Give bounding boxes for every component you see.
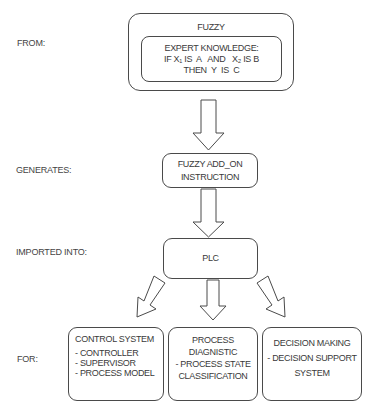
expert-knowledge-box: EXPERT KNOWLEDGE: IF X₁ IS A AND X₂ IS B… [141, 36, 282, 82]
control-system-box: CONTROL SYSTEM - CONTROLLER - SUPERVISOR… [68, 327, 164, 401]
fuzzy-title: FUZZY [197, 22, 225, 33]
decision-item-line1: - DECISION SUPPORT [267, 351, 356, 366]
decision-item-line2: SYSTEM [294, 366, 329, 381]
arrow-down-icon [193, 100, 224, 150]
plc-box: PLC [163, 238, 258, 279]
arrow-down-icon [193, 189, 224, 237]
control-system-title: CONTROL SYSTEM [75, 334, 154, 344]
arrow-down-right-icon [257, 276, 285, 317]
process-item-line1: - PROCESS STATE [175, 358, 250, 370]
process-item-line2: CLASSIFICATION [178, 370, 247, 382]
addon-instruction-box: FUZZY ADD_ON INSTRUCTION [162, 153, 258, 188]
rule-conclusion: THEN Y IS C [184, 65, 240, 76]
control-item-controller: - CONTROLLER [75, 348, 138, 358]
rule-condition: IF X₁ IS A AND X₂ IS B [164, 54, 259, 65]
arrow-down-left-icon [137, 276, 165, 317]
plc-label: PLC [202, 253, 219, 264]
process-title-line1: PROCESS [192, 334, 234, 346]
decision-making-box: DECISION MAKING - DECISION SUPPORT SYSTE… [262, 327, 362, 401]
expert-heading: EXPERT KNOWLEDGE: [164, 43, 258, 54]
process-diagnostic-box: PROCESS DIAGNISTIC - PROCESS STATE CLASS… [168, 327, 258, 401]
process-title-line2: DIAGNISTIC [189, 346, 238, 358]
decision-title: DECISION MAKING [273, 336, 350, 351]
control-item-supervisor: - SUPERVISOR [75, 358, 136, 368]
addon-line2: INSTRUCTION [181, 171, 239, 184]
arrow-down-icon [200, 280, 226, 320]
control-item-process-model: - PROCESS MODEL [75, 368, 155, 378]
addon-line1: FUZZY ADD_ON [178, 158, 243, 171]
